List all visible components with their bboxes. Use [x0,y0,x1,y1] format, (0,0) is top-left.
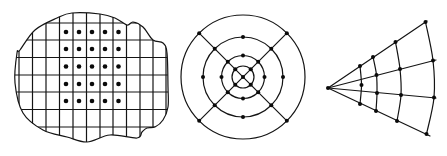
intersection-dot [358,64,362,68]
intersection-dot [431,59,435,63]
intersection-dot [241,35,245,39]
intersection-dot [371,55,375,59]
intersection-dot [226,90,230,94]
intersection-dot [249,67,253,71]
intersection-dot [269,103,273,107]
intersection-dot [395,119,399,123]
intersection-dot [213,103,217,107]
sample-dot [64,47,69,52]
intersection-dot [269,47,273,51]
intersection-dot [256,60,260,64]
fan-ray [328,88,436,98]
sample-dot [103,64,108,69]
sample-dot [77,47,82,52]
sample-dot [103,99,108,104]
sample-dot [116,30,121,35]
intersection-dot [375,73,379,77]
intersection-dot [424,20,428,24]
sample-dot [116,64,121,69]
intersection-dot [197,119,201,123]
polar-rings-panel [181,15,305,139]
intersection-dot [201,75,205,79]
sample-dot [103,82,108,87]
sample-dot [90,47,95,52]
intersection-dot [249,83,253,87]
intersection-dot [256,90,260,94]
intersection-dot [241,115,245,119]
sample-dot [64,64,69,69]
intersection-dot [281,75,285,79]
diagram-figure [0,0,447,156]
sample-dot [116,47,121,52]
sample-dot [90,64,95,69]
intersection-dot [432,96,436,100]
sample-dot [77,99,82,104]
sample-dot [64,99,69,104]
sample-dot [90,99,95,104]
sample-dot [103,30,108,35]
fan-rays-panel [326,20,436,136]
intersection-dot [326,86,330,90]
intersection-dot [233,83,237,87]
intersection-dot [241,54,245,58]
fan-ray [328,60,436,88]
intersection-dot [398,67,402,71]
cartesian-grid-panel [0,0,200,156]
sample-dot [77,64,82,69]
intersection-dot [394,40,398,44]
intersection-dot [285,119,289,123]
intersection-dot [213,47,217,51]
intersection-dot [358,102,362,106]
sample-dot [90,30,95,35]
sample-dot [77,30,82,35]
intersection-dot [220,75,224,79]
fan-ray [328,21,427,88]
sample-dot [116,99,121,104]
intersection-dot [360,83,364,87]
intersection-dot [197,31,201,35]
intersection-dot [399,93,403,97]
fan-arc [373,57,377,111]
intersection-dot [425,132,429,136]
sample-dot [116,82,121,87]
sample-dot [64,30,69,35]
grid-lines [0,0,200,156]
intersection-dot [374,109,378,113]
center-dot [241,75,245,79]
fan-arc [396,42,402,121]
intersection-dot [226,60,230,64]
fan-ray [328,88,430,136]
intersection-dot [375,91,379,95]
intersection-dot [263,75,267,79]
sample-dot [64,82,69,87]
intersection-dot [233,67,237,71]
intersection-dot [285,31,289,35]
intersection-dot [241,97,245,101]
sample-dot [90,82,95,87]
fan-arc [426,22,435,134]
sample-dot [77,82,82,87]
sample-dot [103,47,108,52]
